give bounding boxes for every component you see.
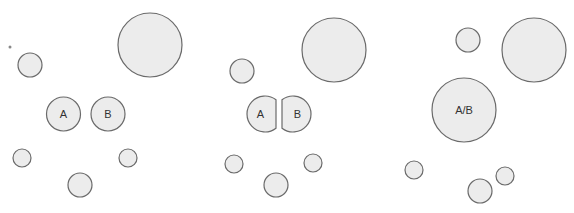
node-label: B [104, 108, 111, 120]
panel-before-merge: AB [9, 13, 183, 197]
circle-node [456, 28, 480, 52]
labeled-node-a: A [47, 97, 81, 131]
circle-node [13, 149, 31, 167]
node-label: A/B [455, 104, 473, 116]
panel-splitting: AB [225, 18, 366, 197]
circle-node [68, 173, 92, 197]
circle-node [119, 149, 137, 167]
labeled-node-a-b: A/B [432, 78, 496, 142]
circle-node [230, 59, 254, 83]
circle-node [302, 18, 366, 82]
circle-node [264, 173, 288, 197]
node-label: B [294, 108, 301, 120]
labeled-node-b: B [91, 97, 125, 131]
circle-node [18, 53, 42, 77]
diagram-canvas: AB AB A/B [0, 0, 574, 213]
circle-node [304, 154, 322, 172]
labeled-node-b: B [282, 96, 311, 132]
circle-node [502, 18, 566, 82]
node-label: A [257, 108, 265, 120]
circle-node [118, 13, 182, 77]
labeled-node-a: A [247, 96, 276, 132]
node-label: A [60, 108, 68, 120]
circle-node [496, 167, 514, 185]
circle-node [405, 161, 423, 179]
circle-node [468, 179, 492, 203]
stray-dot [9, 46, 12, 49]
panel-merged: A/B [405, 18, 566, 203]
circle-node [225, 155, 243, 173]
